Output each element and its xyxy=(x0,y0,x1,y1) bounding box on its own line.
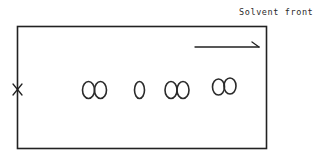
spot-group-3 xyxy=(165,82,189,99)
solvent-front-label: Solvent front xyxy=(239,7,313,17)
spot xyxy=(213,79,225,95)
solvent-direction-arrow xyxy=(195,42,259,47)
spot xyxy=(83,82,95,99)
spot-group-1 xyxy=(83,82,107,99)
spot xyxy=(95,82,107,99)
spot xyxy=(165,82,177,99)
spot xyxy=(135,82,145,99)
spot-group-4 xyxy=(213,78,237,95)
spot-group-2 xyxy=(135,82,145,99)
spot xyxy=(177,82,189,99)
tlc-plate-drawing xyxy=(0,0,321,155)
spot xyxy=(224,78,236,94)
tlc-plate-outline xyxy=(18,27,267,149)
